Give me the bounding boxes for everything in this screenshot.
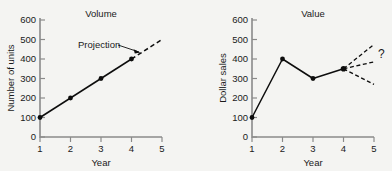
volume-xaxis-title: Year bbox=[91, 157, 110, 168]
volume-xtick-labels: 1 2 3 4 5 bbox=[37, 143, 164, 154]
value-ytick-label-300: 300 bbox=[232, 73, 248, 84]
volume-ytick-label-300: 300 bbox=[20, 73, 36, 84]
value-ytick-label-200: 200 bbox=[232, 92, 248, 103]
volume-xtick-label-4: 4 bbox=[129, 143, 134, 154]
volume-xtick-label-2: 2 bbox=[68, 143, 73, 154]
value-ytick-label-100: 100 bbox=[232, 112, 248, 123]
value-data-markers bbox=[250, 57, 347, 120]
volume-chart-title: Volume bbox=[85, 8, 117, 19]
value-uncertainty-question-mark: ? bbox=[378, 47, 385, 61]
value-projection-low bbox=[344, 69, 375, 85]
value-point-year4 bbox=[341, 66, 347, 72]
value-ytick-label-600: 600 bbox=[232, 14, 248, 25]
volume-point-year1 bbox=[38, 115, 43, 120]
value-yaxis-title: Dollar sales bbox=[217, 53, 228, 103]
value-xtick-label-1: 1 bbox=[249, 143, 254, 154]
volume-point-year2 bbox=[68, 96, 73, 101]
value-xtick-label-3: 3 bbox=[310, 143, 315, 154]
value-data-line bbox=[252, 59, 344, 118]
value-point-year2 bbox=[280, 57, 285, 62]
value-xtick-label-4: 4 bbox=[341, 143, 346, 154]
volume-point-year3 bbox=[99, 76, 104, 81]
value-point-year1 bbox=[250, 115, 255, 120]
value-projection-middle bbox=[344, 62, 375, 69]
volume-xtick-label-1: 1 bbox=[37, 143, 42, 154]
volume-point-year4 bbox=[129, 57, 134, 62]
volume-ytick-label-500: 500 bbox=[20, 34, 36, 45]
volume-yaxis-title: Number of units bbox=[5, 44, 16, 111]
value-xtick-label-2: 2 bbox=[280, 143, 285, 154]
chart-volume: 0 100 200 300 400 500 600 1 2 3 4 5 Volu… bbox=[0, 0, 196, 171]
volume-data-line bbox=[40, 59, 132, 118]
value-chart-title: Value bbox=[301, 8, 325, 19]
volume-projection-annotation: Projection bbox=[78, 39, 141, 54]
value-ytick-label-0: 0 bbox=[243, 131, 248, 142]
value-xaxis-title: Year bbox=[303, 157, 322, 168]
value-point-year3 bbox=[311, 76, 316, 81]
value-xtick-labels: 1 2 3 4 5 bbox=[249, 143, 376, 154]
volume-ytick-labels: 0 100 200 300 400 500 600 bbox=[20, 14, 36, 142]
volume-projection-line bbox=[132, 40, 163, 60]
volume-annotation-label: Projection bbox=[78, 39, 120, 50]
volume-xtick-label-3: 3 bbox=[98, 143, 103, 154]
volume-ytick-label-100: 100 bbox=[20, 112, 36, 123]
value-projection-fan bbox=[344, 44, 375, 84]
value-xtick-label-5: 5 bbox=[371, 143, 376, 154]
value-ytick-label-400: 400 bbox=[232, 53, 248, 64]
volume-ytick-label-400: 400 bbox=[20, 53, 36, 64]
volume-annotation-arrowhead bbox=[134, 49, 141, 53]
value-ytick-labels: 0 100 200 300 400 500 600 bbox=[232, 14, 248, 142]
value-ytick-label-500: 500 bbox=[232, 34, 248, 45]
volume-ytick-label-0: 0 bbox=[31, 131, 36, 142]
chart-value: 0 100 200 300 400 500 600 1 2 3 4 5 Valu… bbox=[196, 0, 392, 171]
volume-ytick-label-600: 600 bbox=[20, 14, 36, 25]
volume-xtick-label-5: 5 bbox=[159, 143, 164, 154]
volume-ytick-label-200: 200 bbox=[20, 92, 36, 103]
two-panel-line-chart-figure: 0 100 200 300 400 500 600 1 2 3 4 5 Volu… bbox=[0, 0, 392, 171]
